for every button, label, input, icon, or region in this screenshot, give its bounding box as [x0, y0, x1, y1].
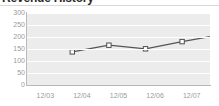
x-tick-label: 12/04: [65, 92, 99, 99]
x-tick-label: 12/07: [175, 92, 209, 99]
gridline: [27, 25, 210, 26]
data-point-marker[interactable]: [70, 50, 74, 54]
data-point-marker[interactable]: [180, 39, 184, 43]
gridline: [27, 61, 210, 62]
y-axis-labels: 300250200150100500: [0, 0, 25, 106]
y-tick-label: 300: [1, 9, 25, 16]
y-tick-label: 200: [1, 33, 25, 40]
x-tick-label: 12/05: [102, 92, 136, 99]
gridline: [27, 13, 210, 14]
x-axis-line: [26, 85, 211, 86]
gridline: [27, 73, 210, 74]
y-tick-label: 250: [1, 21, 25, 28]
data-point-marker[interactable]: [107, 43, 111, 47]
x-tick-label: 12/06: [138, 92, 172, 99]
x-tick-label: 12/03: [28, 92, 62, 99]
y-tick-label: 100: [1, 57, 25, 64]
y-tick-label: 150: [1, 45, 25, 52]
gridline: [27, 37, 210, 38]
gridline: [27, 49, 210, 50]
revenue-history-chart-widget: Revenue History 300250200150100500 12/03…: [0, 0, 219, 106]
y-axis-line: [26, 12, 27, 86]
y-tick-label: 0: [1, 81, 25, 88]
title-divider: [0, 5, 219, 6]
y-tick-label: 50: [1, 69, 25, 76]
revenue-line-series: [54, 26, 210, 85]
plot-area: [27, 13, 210, 85]
